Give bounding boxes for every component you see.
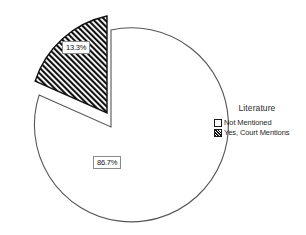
legend-item-label: Not Mentioned	[224, 118, 271, 127]
data-label-court-mentions: 13.3%	[62, 41, 90, 54]
legend-item-label: Yes, Court Mentions	[224, 128, 289, 137]
legend-title: Literature	[214, 103, 306, 113]
legend-item-court-mentions[interactable]: Yes, Court Mentions	[214, 128, 306, 137]
legend-swatch-empty-square-icon	[214, 119, 222, 127]
chart-legend: Literature Not Mentioned Yes, Court Ment…	[214, 103, 306, 138]
chart-screenshot: 13.3% 86.7% Literature Not Mentioned Yes…	[0, 0, 306, 235]
legend-item-not-mentioned[interactable]: Not Mentioned	[214, 118, 306, 127]
legend-swatch-hatched-square-icon	[214, 129, 222, 137]
data-label-not-mentioned: 86.7%	[93, 156, 121, 169]
